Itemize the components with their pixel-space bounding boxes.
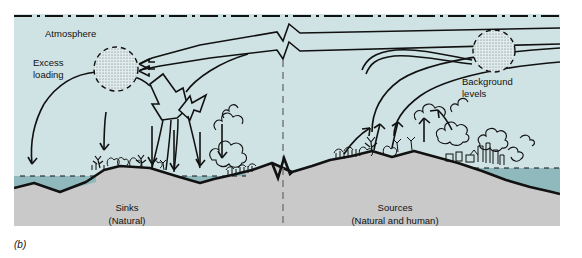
panel-caption: (b): [14, 239, 26, 250]
figure-panel: Atmosphere Excess loading Background lev…: [0, 0, 582, 258]
atmosphere-label: Atmosphere: [45, 28, 96, 40]
sources-label-line2: (Natural and human): [330, 215, 460, 227]
background-levels-label-line1: Background: [462, 76, 513, 88]
excess-loading-circle: [94, 47, 138, 91]
sinks-label-line1: Sinks: [96, 202, 158, 214]
background-levels-label-line2: levels: [462, 88, 486, 100]
background-levels-circle: [473, 30, 515, 72]
excess-loading-label-line2: loading: [33, 69, 64, 81]
sinks-label-line2: (Natural): [96, 215, 158, 227]
sources-label-line1: Sources: [330, 202, 460, 214]
excess-loading-label-line1: Excess: [33, 57, 64, 69]
